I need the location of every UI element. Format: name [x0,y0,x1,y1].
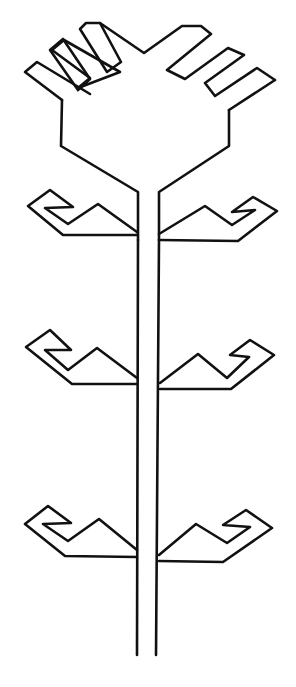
stem-left-line [137,240,138,655]
branch-pair-2 [26,330,274,389]
branch-pair-3 [25,506,272,562]
crown-right-side [159,110,229,240]
crown-top-v [100,23,275,110]
crown-left-finger-3 [80,23,121,72]
branch-left [26,330,137,384]
crown-left-side [61,100,138,240]
branch-right [160,340,274,389]
branch-right [159,510,272,562]
crown-left-finger-2 [52,40,120,88]
tree-drawing [0,0,296,687]
branch-left [28,190,137,235]
stem-right-line [156,240,159,655]
branch-right [159,197,277,241]
branch-left [25,506,137,557]
stem [137,240,159,655]
branch-pair-1 [28,190,277,241]
crown-left-outline [25,62,90,100]
